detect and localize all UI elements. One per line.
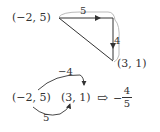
- lower-arc-arrow: [33, 104, 70, 115]
- hypotenuse-line: [59, 18, 113, 61]
- upper-arc-arrow: [38, 75, 84, 90]
- numerator: 4: [122, 86, 132, 96]
- point-b-label: (3, 1): [61, 92, 91, 103]
- run-label: 5: [80, 6, 86, 16]
- start-point-label: (−2, 5): [12, 12, 51, 23]
- lower-arc-label: 5: [43, 113, 49, 123]
- run-bracket: [59, 12, 115, 20]
- implies-arrow-icon: ⇨: [97, 91, 108, 104]
- end-point-label: (3, 1): [117, 58, 147, 69]
- slope-triangle: [59, 12, 119, 62]
- upper-arc-label: −4: [58, 67, 73, 77]
- rise-label: 4: [114, 36, 120, 46]
- result-sign: −: [113, 93, 122, 104]
- result-fraction: 4 5: [122, 86, 132, 109]
- denominator: 5: [122, 99, 132, 109]
- point-a-label: (−2, 5): [12, 92, 51, 103]
